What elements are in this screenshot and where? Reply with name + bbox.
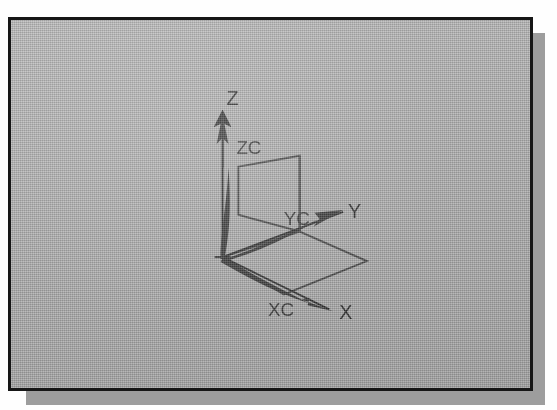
world-axes: [215, 113, 344, 309]
z-axis-label: Z: [227, 87, 239, 109]
figure-frame: Z Y X ZC YC XC: [8, 17, 533, 391]
xc-vector-label: XC: [268, 299, 294, 320]
x-axis-label: X: [339, 301, 352, 323]
xc-vector: [221, 258, 310, 303]
y-arrow-head: [314, 210, 344, 227]
zc-vector-label: ZC: [236, 137, 261, 158]
y-axis-label: Y: [348, 200, 361, 222]
diagram-drawing: Z Y X ZC YC XC: [11, 20, 530, 388]
coordinate-frame-svg: Z Y X ZC YC XC: [11, 20, 530, 388]
axis-labels: Z Y X: [227, 87, 362, 323]
yc-vector-label: YC: [284, 208, 310, 229]
base-plane: [223, 232, 367, 295]
scanned-page: Z Y X ZC YC XC: [0, 0, 557, 410]
